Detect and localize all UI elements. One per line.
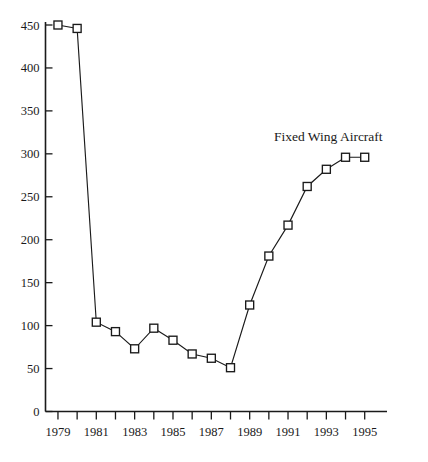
data-point-marker	[131, 345, 139, 353]
x-tick-label: 1981	[84, 425, 109, 439]
y-tick-label: 300	[21, 147, 40, 161]
y-tick-label: 0	[33, 405, 39, 419]
x-tick-label: 1987	[199, 425, 224, 439]
data-point-marker	[342, 153, 350, 161]
data-point-marker	[150, 324, 158, 332]
y-tick-label: 400	[21, 61, 40, 75]
y-tick-label: 250	[21, 190, 40, 204]
data-point-marker	[246, 301, 254, 309]
y-tick-label: 150	[21, 276, 40, 290]
data-point-marker	[54, 21, 62, 29]
y-tick-label: 100	[21, 319, 40, 333]
y-tick-label: 450	[21, 19, 40, 33]
data-point-marker	[92, 318, 100, 326]
data-point-marker	[73, 24, 81, 32]
x-tick-label: 1995	[352, 425, 377, 439]
y-axis-tick-labels: 050100150200250300350400450	[21, 19, 40, 420]
data-point-marker	[284, 221, 292, 229]
x-tick-label: 1993	[314, 425, 339, 439]
x-tick-label: 1989	[237, 425, 262, 439]
y-axis-ticks	[46, 25, 53, 412]
y-tick-label: 350	[21, 104, 40, 118]
data-point-marker	[303, 182, 311, 190]
series-line-fixed-wing-aircraft	[58, 25, 365, 368]
y-tick-label: 50	[27, 362, 40, 376]
data-point-marker	[361, 153, 369, 161]
data-point-marker	[207, 354, 215, 362]
x-axis-tick-labels: 197919811983198519871989199119931995	[45, 425, 377, 439]
data-point-marker	[322, 165, 330, 173]
data-point-marker	[227, 364, 235, 372]
line-chart: 050100150200250300350400450 197919811983…	[0, 0, 428, 462]
chart-page: 050100150200250300350400450 197919811983…	[0, 0, 428, 462]
x-tick-label: 1979	[45, 425, 70, 439]
data-point-marker	[111, 328, 119, 336]
x-tick-label: 1991	[276, 425, 301, 439]
data-point-marker	[265, 252, 273, 260]
data-point-marker	[169, 336, 177, 344]
data-point-marker	[188, 350, 196, 358]
series-annotation-label: Fixed Wing Aircraft	[274, 129, 383, 144]
y-tick-label: 200	[21, 233, 40, 247]
x-tick-label: 1985	[160, 425, 185, 439]
series-markers	[54, 21, 369, 372]
x-axis-ticks	[58, 412, 365, 420]
x-tick-label: 1983	[122, 425, 147, 439]
